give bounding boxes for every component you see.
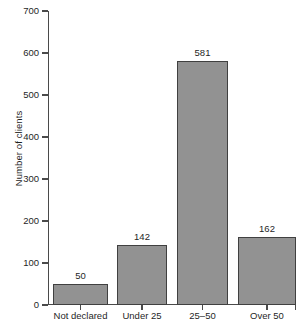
y-axis-tick <box>42 262 48 263</box>
y-axis-tick-label: 400 <box>0 131 39 142</box>
y-axis-tick <box>42 52 48 53</box>
y-axis-tick-label: 100 <box>0 257 39 268</box>
bar-value-label: 142 <box>112 231 172 242</box>
bar <box>238 237 296 305</box>
y-axis-tick <box>42 178 48 179</box>
x-axis-category-label: Over 50 <box>222 310 307 321</box>
y-axis-tick <box>42 136 48 137</box>
y-axis-line <box>48 11 49 305</box>
bar-value-label: 50 <box>51 270 111 281</box>
y-axis-title: Number of clients <box>13 84 24 214</box>
x-axis-end-tick <box>295 305 296 310</box>
y-axis-tick-label: 600 <box>0 47 39 58</box>
y-axis-tick-label: 0 <box>0 299 39 310</box>
bar-chart: Number of clients 0100200300400500600700… <box>0 0 307 336</box>
y-axis-tick-label: 500 <box>0 89 39 100</box>
y-axis-tick <box>42 220 48 221</box>
y-axis-tick-label: 200 <box>0 215 39 226</box>
bar <box>53 284 108 305</box>
bar-value-label: 581 <box>173 47 233 58</box>
y-axis-tick-label: 700 <box>0 5 39 16</box>
y-axis-tick <box>42 10 48 11</box>
y-axis-tick <box>42 94 48 95</box>
bar <box>117 245 167 305</box>
y-axis-tick-label: 300 <box>0 173 39 184</box>
bar-value-label: 162 <box>237 223 297 234</box>
bar <box>177 61 228 305</box>
